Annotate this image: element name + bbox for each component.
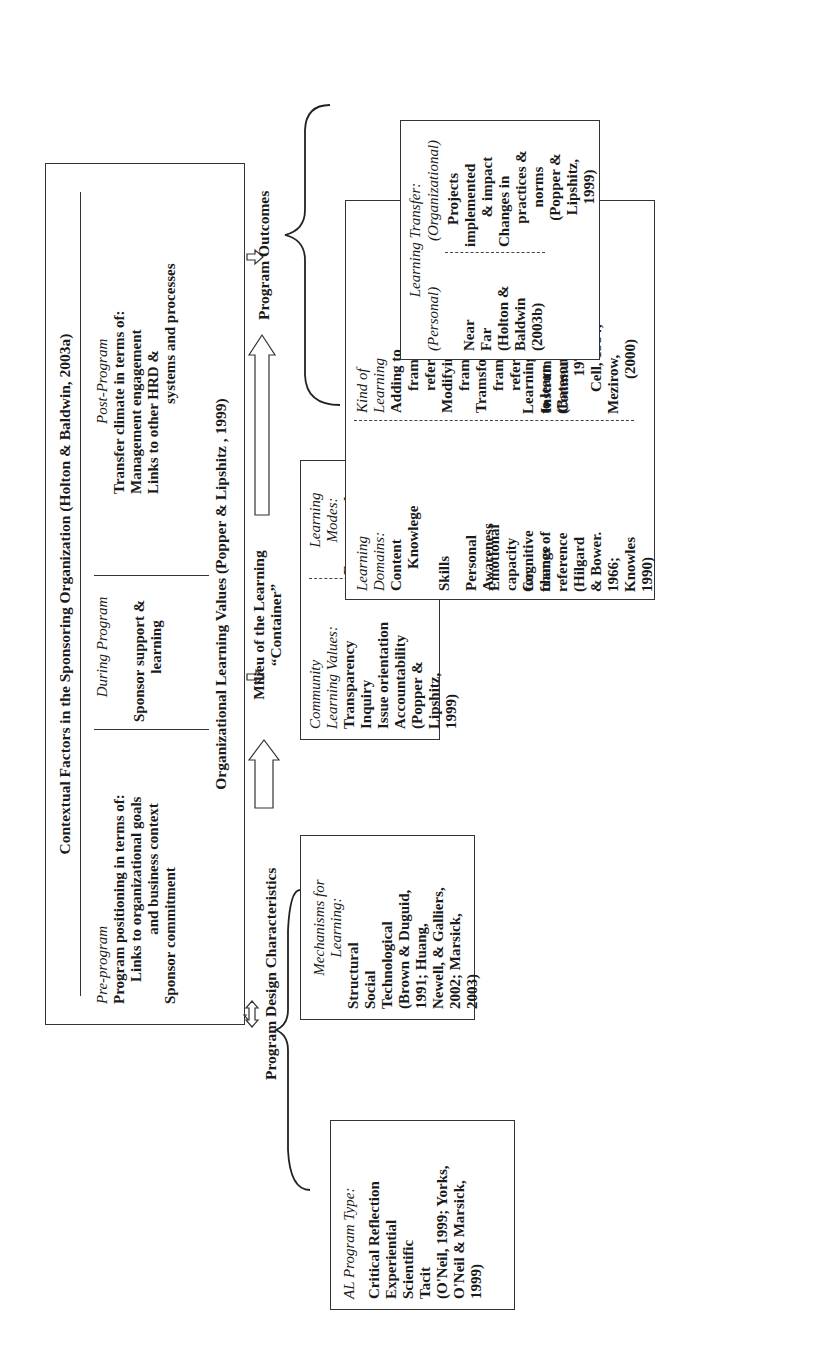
domain-item: Cognitive — [520, 422, 537, 592]
transfer-personal-item: Near — [461, 255, 478, 351]
transfer-personal-column: Near Far (Holton & Baldwin (2003b) — [461, 255, 546, 351]
transfer-org-item: norms — [530, 127, 547, 247]
transfer-personal-heading: (Personal) — [425, 287, 442, 351]
transfer-heading: Learning Transfer: — [407, 121, 424, 359]
domain-item: (Hilgard — [571, 422, 588, 592]
domain-item: & Bower. — [588, 422, 605, 592]
learning-modes-heading: Learning — [307, 465, 324, 575]
domain-item: frames of — [537, 422, 554, 592]
milieu-label-line: Milieu of the Learning — [250, 515, 267, 735]
domains-heading: Learning — [354, 431, 371, 591]
arrow-right-icon — [249, 740, 279, 808]
community-values-item: 1999) — [443, 579, 460, 729]
rotated-diagram: Contextual Factors in the Sponsoring Org… — [0, 0, 829, 1360]
domain-item: reference — [554, 422, 571, 592]
transfer-personal-item: Baldwin — [512, 255, 529, 351]
al-program-type-item: Critical Reflection — [366, 1131, 383, 1299]
transfer-org-item: & impact — [479, 127, 496, 247]
community-values-item: Inquiry — [358, 579, 375, 729]
al-program-type-box: AL Program Type: Critical Reflection Exp… — [330, 1120, 515, 1310]
milieu-label-line: “Container” — [267, 515, 284, 735]
transfer-organizational-heading: (Organizational) — [425, 140, 442, 241]
al-program-type-citation: (O'Neil, 1999; Yorks, — [434, 1131, 451, 1299]
transfer-personal-item: Far — [478, 255, 495, 351]
domain-item: capacity — [503, 426, 520, 591]
transfer-personal-item: (Holton & — [495, 255, 512, 351]
mechanisms-citation: 1991; Huang, — [413, 846, 430, 1009]
arrow-right-icon — [249, 335, 275, 515]
community-values-item: Accountability — [392, 579, 409, 729]
al-program-type-item: Tacit — [417, 1131, 434, 1299]
transfer-divider — [445, 252, 545, 253]
domains-heading: Domains: — [371, 431, 388, 591]
domain-item: Content — [388, 426, 405, 591]
mechanisms-heading: Learning: — [328, 846, 345, 1009]
domain-item: Emotional — [486, 426, 503, 591]
al-program-type-item: Experiential — [383, 1131, 400, 1299]
kind-item: (2000) — [622, 304, 639, 414]
domains-column: Content Knowlege Skills Personal Awarene… — [388, 426, 497, 591]
community-values-column: Community Learning Values: Transparency … — [307, 579, 460, 729]
transfer-org-item: (Popper & — [547, 127, 564, 247]
al-program-type-citation: O'Neil & Marsick, — [451, 1131, 468, 1299]
domain-item: Personal — [463, 426, 480, 591]
al-program-type-citation: 1999) — [468, 1131, 485, 1299]
community-values-item: Transparency — [341, 579, 358, 729]
kind-item: Mezirow, — [605, 214, 622, 414]
mechanisms-item: Structural — [345, 846, 362, 1009]
transfer-org-item: Projects — [445, 127, 462, 247]
domain-item: Skills — [436, 426, 453, 591]
brace-outcomes — [285, 105, 340, 405]
community-values-item: Lipshitz, — [426, 579, 443, 729]
transfer-personal-item: (2003b) — [529, 255, 546, 351]
domains-headings: Learning Domains: — [354, 431, 388, 591]
transfer-box: Learning Transfer: (Personal) (Organizat… — [400, 120, 600, 360]
mechanisms-item: Technological — [379, 846, 396, 1009]
domain-item: Knowlege — [405, 426, 422, 591]
al-program-type-heading: AL Program Type: — [341, 1131, 358, 1299]
mechanisms-item: Social — [362, 846, 379, 1009]
mechanisms-citation: 2003) — [464, 846, 481, 1009]
mechanisms-citation: 2002; Marsick, — [447, 846, 464, 1009]
al-program-type-item: Scientific — [400, 1131, 417, 1299]
mechanisms-box: Mechanisms for Learning: Structural Soci… — [300, 835, 475, 1020]
mechanisms-citation: Newell, & Galliers, — [430, 846, 447, 1009]
program-design-label: Program Design Characteristics — [262, 868, 279, 1080]
learning-modes-heading: Modes: — [324, 465, 341, 575]
community-values-heading: Community — [307, 579, 324, 729]
learning-divider — [354, 420, 634, 421]
community-values-heading: Learning Values: — [324, 579, 341, 729]
kind-heading: Learning — [371, 213, 388, 413]
transfer-org-item: practices & — [513, 127, 530, 247]
domain-item: 1966; — [605, 422, 622, 592]
transfer-organizational-column: Projects implemented & impact Changes in… — [445, 127, 598, 247]
kind-heading: Kind of — [354, 213, 371, 413]
mechanisms-heading: Mechanisms for — [311, 846, 328, 1009]
domain-item: 1990) — [639, 422, 656, 592]
mechanisms-citation: (Brown & Duguid, — [396, 846, 413, 1009]
community-values-item: (Popper & — [409, 579, 426, 729]
transfer-org-item: 1999) — [581, 127, 598, 247]
transfer-org-item: Changes in — [496, 127, 513, 247]
community-values-item: Issue orientation — [375, 579, 392, 729]
double-arrow-icon — [244, 1001, 258, 1027]
transfer-org-item: Lipshitz, — [564, 127, 581, 247]
kind-headings: Kind of Learning — [354, 213, 388, 413]
cognitive-block: Cognitive frames of reference (Hilgard &… — [520, 422, 656, 592]
milieu-label: Milieu of the Learning “Container” — [250, 515, 284, 735]
domain-item: Knowles — [622, 422, 639, 592]
transfer-org-item: implemented — [462, 127, 479, 247]
program-outcomes-label: Program Outcomes — [255, 191, 272, 320]
